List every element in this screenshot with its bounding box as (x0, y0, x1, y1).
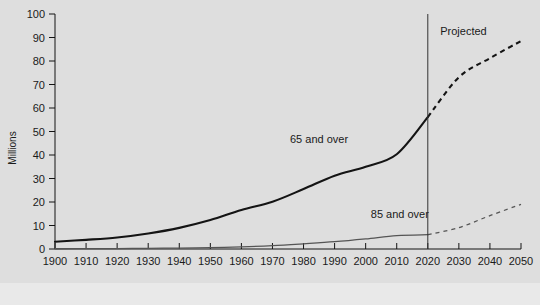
x-tick-label-1920: 1920 (105, 255, 129, 267)
line-chart: 0102030405060708090100 Millions 19001910… (0, 0, 540, 305)
y-axis-group: 0102030405060708090100 Millions (7, 8, 55, 255)
annotation-layer: Projected (428, 14, 487, 249)
x-tick-label-2020: 2020 (416, 255, 440, 267)
y-tick-marks (49, 14, 55, 249)
y-axis-title: Millions (7, 131, 18, 164)
y-tick-label-10: 10 (33, 220, 45, 232)
x-tick-label-2030: 2030 (447, 255, 471, 267)
y-tick-label-100: 100 (27, 8, 45, 20)
y-tick-label-80: 80 (33, 55, 45, 67)
series-65-and-over-projected-line (428, 41, 521, 117)
x-tick-label-1990: 1990 (322, 255, 346, 267)
series-label-layer: 65 and over85 and over (290, 133, 429, 220)
series-label-65-and-over: 65 and over (290, 133, 348, 145)
x-tick-label-2000: 2000 (353, 255, 377, 267)
y-tick-label-90: 90 (33, 32, 45, 44)
series-layer (55, 41, 521, 249)
series-label-85-and-over: 85 and over (371, 208, 429, 220)
series-85-and-over-projected-line (428, 204, 521, 234)
y-tick-label-30: 30 (33, 173, 45, 185)
x-tick-label-1980: 1980 (291, 255, 315, 267)
chart-figure: 0102030405060708090100 Millions 19001910… (0, 0, 540, 305)
x-tick-label-1900: 1900 (43, 255, 67, 267)
x-tick-label-1950: 1950 (198, 255, 222, 267)
x-axis-group: 1900191019201930194019501960197019801990… (43, 243, 533, 267)
series-85-and-over (55, 204, 521, 248)
y-tick-label-40: 40 (33, 149, 45, 161)
y-tick-labels: 0102030405060708090100 (27, 8, 45, 255)
x-tick-label-1930: 1930 (136, 255, 160, 267)
series-85-and-over-observed-line (55, 235, 428, 249)
x-tick-labels: 1900191019201930194019501960197019801990… (43, 255, 533, 267)
y-tick-label-60: 60 (33, 102, 45, 114)
series-65-and-over-observed-line (55, 117, 428, 242)
y-tick-label-50: 50 (33, 126, 45, 138)
y-tick-label-20: 20 (33, 196, 45, 208)
x-tick-label-2050: 2050 (509, 255, 533, 267)
x-tick-label-1970: 1970 (260, 255, 284, 267)
x-tick-label-2010: 2010 (384, 255, 408, 267)
x-tick-label-1960: 1960 (229, 255, 253, 267)
y-tick-label-0: 0 (39, 243, 45, 255)
x-tick-label-1910: 1910 (74, 255, 98, 267)
x-tick-label-2040: 2040 (478, 255, 502, 267)
x-tick-label-1940: 1940 (167, 255, 191, 267)
annotation-label-projected: Projected (440, 25, 486, 37)
series-65-and-over (55, 41, 521, 242)
y-tick-label-70: 70 (33, 79, 45, 91)
